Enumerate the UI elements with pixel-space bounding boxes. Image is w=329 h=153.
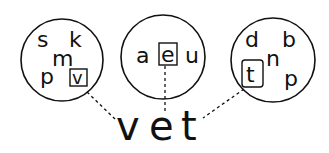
word-letter-t: t [181,103,197,149]
word-letter-v: v [116,103,140,149]
letter-b: b [282,27,296,52]
letter-n: n [266,46,280,71]
letter-d: d [245,27,259,52]
built-word: v e t [116,103,197,149]
letter-t-selected: t [246,62,255,87]
circle-onset: s k m p v [21,19,103,101]
letter-p: p [40,64,54,89]
diagram-canvas: s k m p v a e u d b n t p v e t [0,0,329,153]
letter-m: m [52,46,73,71]
letter-v-selected: v [72,67,83,88]
connector-coda [203,89,244,118]
letter-a: a [136,43,149,68]
letter-s: s [37,27,48,52]
connector-onset [87,92,116,120]
letter-u: u [185,43,199,68]
circle-vowel: a e u [121,15,205,99]
letter-e-selected: e [161,42,175,67]
word-building-diagram: s k m p v a e u d b n t p v e t [0,0,329,153]
letter-p: p [284,66,298,91]
word-letter-e: e [149,103,174,149]
